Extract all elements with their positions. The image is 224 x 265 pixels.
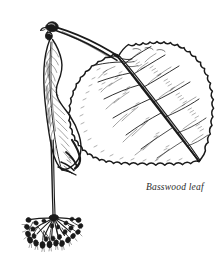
figure-caption: Basswood leaf xyxy=(146,183,204,193)
illustration-page: Basswood leaf xyxy=(0,0,224,265)
illustration-background xyxy=(0,0,224,265)
basswood-leaf-illustration xyxy=(0,0,224,265)
